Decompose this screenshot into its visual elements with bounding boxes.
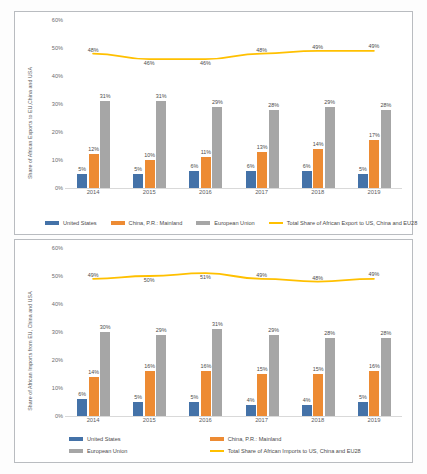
bar-value-label: 5%	[128, 394, 148, 400]
line-value-label: 51%	[195, 274, 215, 280]
legend-item-european-union[interactable]: European Union	[69, 448, 202, 454]
figure-page: Share of African Exports to EU,China and…	[0, 0, 427, 474]
legend-swatch-icon-united-states	[69, 437, 83, 441]
legend-item-european-union[interactable]: European Union	[196, 220, 254, 226]
bar-value-label: 31%	[95, 93, 115, 99]
legend-label: China, P.R.: Mainland	[129, 220, 183, 226]
bar-value-label: 14%	[308, 141, 328, 147]
exports-chart-panel: Share of African Exports to EU,China and…	[14, 11, 413, 235]
imports-legend: United States China, P.R.: Mainland Euro…	[45, 436, 402, 454]
exports-legend: United States China, P.R.: Mainland Euro…	[45, 220, 402, 226]
legend-label: European Union	[87, 448, 127, 454]
bar-value-label: 31%	[151, 93, 171, 99]
legend-line-icon-total-share	[269, 222, 283, 224]
bar-value-label: 15%	[252, 366, 272, 372]
legend-label: United States	[87, 436, 121, 442]
y-axis-tick: 30%	[39, 329, 63, 335]
legend-label: Total Share of African Export to US, Chi…	[287, 220, 418, 226]
legend-label: Total Share of African Imports to US, Ch…	[228, 448, 361, 454]
bar-value-label: 28%	[376, 330, 396, 336]
imports-x-axis: 201420152016201720182019	[65, 417, 402, 429]
x-axis-tick: 2015	[134, 189, 164, 195]
exports-x-axis: 201420152016201720182019	[65, 189, 402, 201]
y-axis-tick: 50%	[39, 273, 63, 279]
bar-value-label: 14%	[84, 369, 104, 375]
y-axis-tick: 40%	[39, 73, 63, 79]
imports-plot-area: 6%14%30%5%16%29%5%16%31%4%15%29%4%15%28%…	[39, 248, 406, 416]
imports-y-axis-title: Share of African Imports from EU, China …	[23, 240, 37, 462]
x-axis-tick: 2014	[78, 189, 108, 195]
bar-value-label: 31%	[207, 321, 227, 327]
bar-value-label: 29%	[320, 99, 340, 105]
bar-value-label: 10%	[140, 152, 160, 158]
x-axis-tick: 2016	[190, 189, 220, 195]
y-axis-tick: 50%	[39, 45, 63, 51]
exports-labels-layer: 5%12%31%5%10%31%6%11%29%6%13%28%6%14%29%…	[65, 20, 402, 188]
exports-y-axis-title: Share of African Exports to EU,China and…	[23, 12, 37, 234]
line-value-label: 48%	[308, 275, 328, 281]
bar-value-label: 28%	[376, 102, 396, 108]
exports-plot-area: 5%12%31%5%10%31%6%11%29%6%13%28%6%14%29%…	[39, 20, 406, 188]
bar-value-label: 16%	[364, 363, 384, 369]
y-axis-tick: 10%	[39, 385, 63, 391]
bar-value-label: 29%	[207, 99, 227, 105]
bar-value-label: 6%	[241, 163, 261, 169]
line-value-label: 49%	[364, 43, 384, 49]
bar-value-label: 6%	[184, 163, 204, 169]
y-axis-tick: 0%	[39, 185, 63, 191]
bar-value-label: 6%	[72, 391, 92, 397]
line-value-label: 49%	[308, 44, 328, 50]
y-axis-tick: 60%	[39, 245, 63, 251]
imports-labels-layer: 6%14%30%5%16%29%5%16%31%4%15%29%4%15%28%…	[65, 248, 402, 416]
bar-value-label: 12%	[84, 146, 104, 152]
bar-value-label: 15%	[308, 366, 328, 372]
legend-swatch-icon-european-union	[196, 221, 210, 225]
legend-item-united-states[interactable]: United States	[45, 220, 97, 226]
bar-value-label: 4%	[241, 397, 261, 403]
line-value-label: 48%	[83, 47, 103, 53]
legend-label: China, P.R.: Mainland	[228, 436, 282, 442]
y-axis-tick: 60%	[39, 17, 63, 23]
bar-value-label: 5%	[353, 394, 373, 400]
bar-value-label: 29%	[151, 327, 171, 333]
legend-item-china[interactable]: China, P.R.: Mainland	[210, 436, 402, 442]
line-value-label: 46%	[139, 60, 159, 66]
legend-swatch-icon-united-states	[45, 221, 59, 225]
legend-swatch-icon-china	[111, 221, 125, 225]
x-axis-tick: 2018	[303, 417, 333, 423]
bar-value-label: 16%	[140, 363, 160, 369]
x-axis-tick: 2018	[303, 189, 333, 195]
bar-value-label: 5%	[184, 394, 204, 400]
line-value-label: 49%	[83, 272, 103, 278]
line-value-label: 49%	[252, 272, 272, 278]
y-axis-tick: 20%	[39, 129, 63, 135]
y-axis-tick: 40%	[39, 301, 63, 307]
legend-line-icon-total-share	[210, 450, 224, 452]
x-axis-tick: 2017	[247, 189, 277, 195]
bar-value-label: 11%	[196, 149, 216, 155]
bar-value-label: 29%	[264, 327, 284, 333]
bar-value-label: 5%	[353, 166, 373, 172]
bar-value-label: 16%	[196, 363, 216, 369]
x-axis-tick: 2015	[134, 417, 164, 423]
x-axis-tick: 2016	[190, 417, 220, 423]
bar-value-label: 28%	[320, 330, 340, 336]
line-value-label: 48%	[252, 47, 272, 53]
legend-label: European Union	[214, 220, 254, 226]
bar-value-label: 5%	[128, 166, 148, 172]
legend-label: United States	[63, 220, 97, 226]
x-axis-tick: 2019	[359, 189, 389, 195]
bar-value-label: 17%	[364, 132, 384, 138]
legend-item-total-share[interactable]: Total Share of African Export to US, Chi…	[269, 220, 418, 226]
legend-item-united-states[interactable]: United States	[69, 436, 202, 442]
x-axis-tick: 2017	[247, 417, 277, 423]
line-value-label: 50%	[139, 277, 159, 283]
legend-swatch-icon-china	[210, 437, 224, 441]
y-axis-tick: 0%	[39, 413, 63, 419]
y-axis-tick: 30%	[39, 101, 63, 107]
legend-swatch-icon-european-union	[69, 449, 83, 453]
line-value-label: 46%	[195, 60, 215, 66]
legend-item-total-share[interactable]: Total Share of African Imports to US, Ch…	[210, 448, 402, 454]
legend-item-china[interactable]: China, P.R.: Mainland	[111, 220, 183, 226]
line-value-label: 49%	[364, 271, 384, 277]
